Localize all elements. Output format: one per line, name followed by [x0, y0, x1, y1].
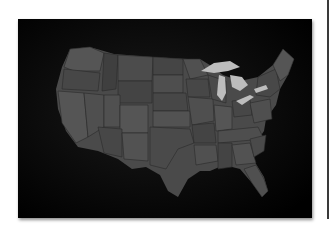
page-divider	[327, 0, 329, 219]
us-map-photo: Dark photograph of a grey map of the con…	[18, 19, 312, 218]
us-map-graphic	[18, 19, 312, 218]
